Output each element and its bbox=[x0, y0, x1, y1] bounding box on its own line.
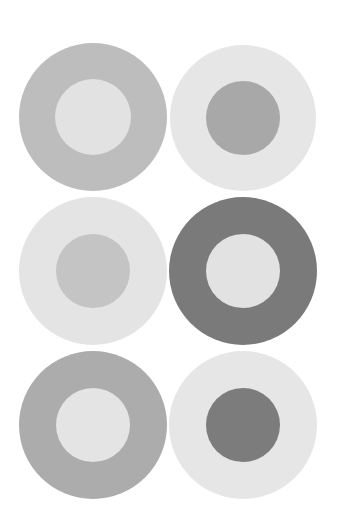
inner-circle-middle-left bbox=[56, 234, 130, 308]
inner-circle-middle-right bbox=[206, 234, 280, 308]
inner-circle-bottom-right bbox=[206, 388, 280, 462]
inner-circle-top-left bbox=[55, 79, 131, 155]
inner-circle-bottom-left bbox=[56, 388, 130, 462]
inner-circle-top-right bbox=[206, 81, 280, 155]
